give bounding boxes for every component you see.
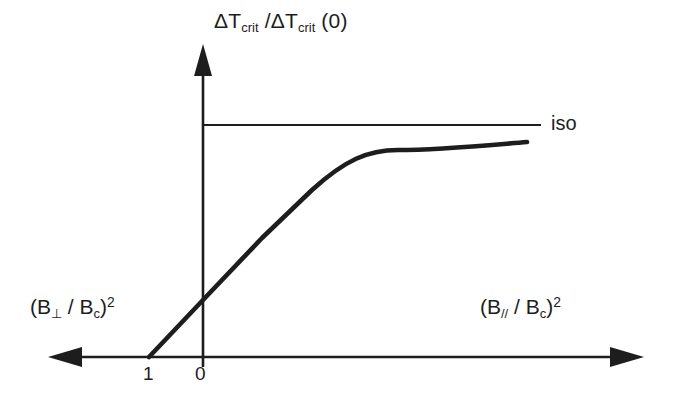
x-axis-label-left-exponent: 2 bbox=[107, 294, 115, 310]
x-axis-label-left-sub: ⊥ bbox=[51, 306, 62, 321]
x-axis-left-arrowhead-icon bbox=[48, 347, 82, 367]
plot-area bbox=[0, 0, 691, 411]
x-axis-label-right: (B// / Bc)2 bbox=[480, 296, 561, 320]
y-axis-label-mid: /ΔT bbox=[259, 9, 298, 32]
y-axis-label-suffix: (0) bbox=[315, 9, 347, 32]
figure-canvas: ΔTcrit /ΔTcrit (0) (B⊥ / Bc)2 (B// / Bc)… bbox=[0, 0, 691, 411]
x-tick-label-one: 1 bbox=[143, 364, 154, 383]
iso-annotation-label: iso bbox=[551, 113, 577, 133]
critical-temperature-curve bbox=[149, 142, 527, 357]
y-axis-label-prefix: ΔT bbox=[214, 9, 241, 32]
x-axis-label-right-mid: / B bbox=[508, 295, 540, 318]
x-axis-right-arrowhead-icon bbox=[610, 347, 644, 367]
x-axis-label-left: (B⊥ / Bc)2 bbox=[30, 296, 115, 320]
x-axis-label-right-exponent: 2 bbox=[553, 294, 561, 310]
x-axis-label-left-close: ) bbox=[100, 295, 107, 318]
x-axis-label-left-mid: / B bbox=[62, 295, 94, 318]
y-axis-label: ΔTcrit /ΔTcrit (0) bbox=[214, 10, 348, 34]
x-axis-label-right-open: (B bbox=[480, 295, 501, 318]
y-axis-label-sub1: crit bbox=[241, 20, 258, 35]
x-tick-label-zero: 0 bbox=[195, 364, 206, 383]
y-axis-label-sub2: crit bbox=[298, 20, 315, 35]
x-axis-label-left-open: (B bbox=[30, 295, 51, 318]
y-axis-arrowhead-icon bbox=[194, 44, 212, 76]
